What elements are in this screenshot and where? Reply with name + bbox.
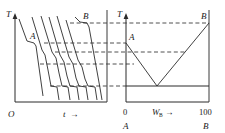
cooling-curve-4	[49, 17, 79, 100]
left-panel-x-axis-arrow-icon: →	[70, 109, 79, 119]
left-panel-y-axis-label: T	[6, 9, 12, 19]
left-panel-curve-label-B: B	[83, 11, 89, 21]
right-panel-tick-label-0: 0	[123, 107, 127, 117]
right-panel: T A B 0 100 A B W B →	[117, 9, 212, 131]
cooling-curve-B	[75, 17, 102, 100]
liquidus-a-branch	[126, 43, 157, 86]
right-panel-component-label-B: B	[203, 121, 209, 131]
right-panel-component-label-A: A	[122, 121, 129, 131]
right-panel-point-label-B: B	[201, 11, 207, 21]
figure-root: T A B O t → T A B 0 100 A	[0, 0, 225, 133]
tie-lines-group	[40, 23, 209, 86]
right-panel-y-axis-arrow	[124, 13, 129, 19]
liquidus-b-branch	[157, 23, 209, 86]
left-panel-x-axis-label: t	[63, 109, 66, 119]
right-panel-x-axis-arrow-icon: →	[165, 107, 174, 117]
right-panel-x-axis-label-subscript: B	[159, 112, 163, 118]
left-panel-y-axis-arrow	[13, 13, 18, 19]
right-panel-tick-label-100: 100	[199, 107, 212, 117]
right-panel-y-axis-label: T	[117, 9, 123, 19]
right-panel-point-label-A: A	[128, 32, 135, 42]
left-panel-origin-label: O	[8, 109, 15, 119]
left-panel-curve-label-A: A	[29, 31, 36, 41]
figure-canvas: T A B O t → T A B 0 100 A	[0, 0, 225, 133]
